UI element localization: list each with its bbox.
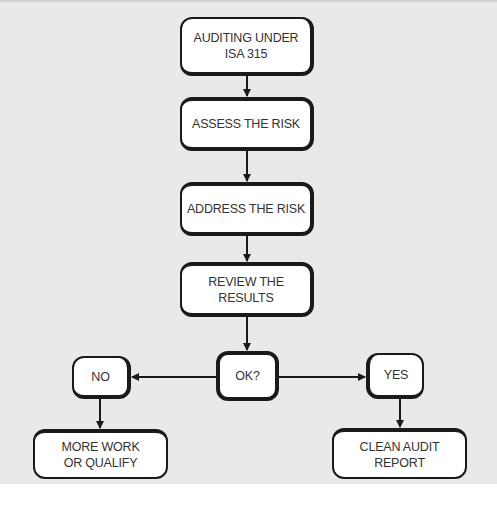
node-address-the-risk: ADDRESS THE RISK [180,182,314,236]
node-no: NO [72,356,131,399]
node-review-the-results: REVIEW THE RESULTS [180,262,314,317]
node-decision-ok: OK? [216,351,279,401]
node-auditing-under-isa-315: AUDITING UNDER ISA 315 [180,17,314,76]
node-yes: YES [366,353,424,399]
top-edge-line [0,0,497,2]
node-more-work-or-qualify: MORE WORK OR QUALIFY [33,429,168,479]
node-assess-the-risk: ASSESS THE RISK [180,97,314,151]
diagram-canvas: AUDITING UNDER ISA 315 ASSESS THE RISK A… [0,0,497,484]
node-clean-audit-report: CLEAN AUDIT REPORT [332,428,467,479]
